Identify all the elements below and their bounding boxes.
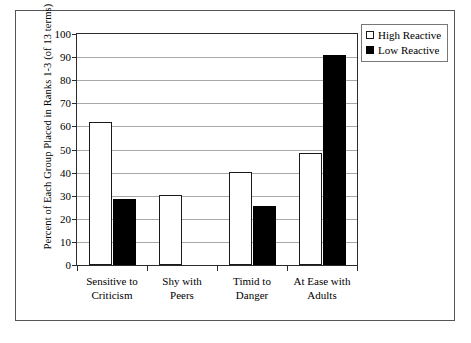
y-tick-label: 0 [66, 260, 72, 271]
x-tick-mark [357, 265, 358, 271]
gridline [77, 80, 357, 81]
legend-item: Low Reactive [366, 43, 441, 58]
y-tick-label: 20 [60, 213, 71, 224]
bar-low-reactive [253, 206, 276, 265]
x-tick-mark [147, 265, 148, 271]
y-tick-mark [72, 173, 77, 174]
y-tick-mark [72, 34, 77, 35]
y-tick-label: 60 [60, 121, 71, 132]
y-tick-label: 40 [60, 167, 71, 178]
y-tick-mark [72, 242, 77, 243]
gridline [77, 126, 357, 127]
x-category-label: At Ease with Adults [277, 274, 367, 302]
y-tick-label: 90 [60, 52, 71, 63]
bar-low-reactive [323, 55, 346, 265]
filled-square-swatch [366, 46, 374, 54]
plot-area: 1009080706050403020100 Sensitive to Crit… [76, 33, 358, 266]
y-tick-mark [72, 219, 77, 220]
bar-low-reactive [113, 199, 136, 265]
y-tick-mark [72, 150, 77, 151]
y-tick-label: 30 [60, 190, 71, 201]
hollow-square-swatch [366, 31, 374, 39]
y-axis-title: Percent of Each Group Placed in Ranks 1-… [42, 20, 53, 250]
x-tick-mark [77, 265, 78, 271]
y-tick-mark [72, 103, 77, 104]
bar-high-reactive [89, 122, 112, 265]
legend-item: High Reactive [366, 28, 441, 43]
x-tick-mark [287, 265, 288, 271]
bar-high-reactive [229, 172, 252, 265]
bar-high-reactive [159, 195, 182, 265]
y-tick-label: 80 [60, 75, 71, 86]
chart-figure-frame: Percent of Each Group Placed in Ranks 1-… [15, 10, 455, 321]
gridline [77, 103, 357, 104]
y-tick-mark [72, 57, 77, 58]
y-tick-mark [72, 196, 77, 197]
y-tick-label: 50 [60, 144, 71, 155]
gridline [77, 57, 357, 58]
y-tick-label: 10 [60, 236, 71, 247]
y-tick-label: 70 [60, 98, 71, 109]
y-tick-mark [72, 126, 77, 127]
y-tick-label: 100 [55, 29, 72, 40]
legend-label: High Reactive [378, 28, 441, 43]
legend-label: Low Reactive [378, 43, 439, 58]
y-tick-mark [72, 80, 77, 81]
x-tick-mark [217, 265, 218, 271]
gridline [77, 150, 357, 151]
chart-legend: High ReactiveLow Reactive [361, 24, 448, 62]
bar-high-reactive [299, 153, 322, 265]
